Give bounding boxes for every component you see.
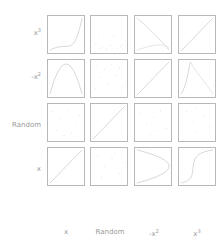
row-label-sup: 2 [38, 71, 41, 77]
col-label-base: Random [96, 228, 125, 236]
col-label-base: x [64, 228, 68, 236]
row-label-x: x [37, 165, 41, 173]
panel-random-vs-neg-x2 [134, 103, 172, 142]
random-scatter [48, 104, 84, 141]
random-scatter [91, 16, 127, 53]
panel-neg-x2-vs-x [47, 59, 85, 98]
panel-random-vs-x3 [178, 103, 216, 142]
panel-x-vs-random [90, 147, 128, 186]
row-label-base: Random [12, 121, 41, 129]
col-label-sup: 3 [197, 228, 200, 234]
identity-diagonal [179, 16, 215, 53]
identity-diagonal [48, 148, 84, 185]
inverted-parabola [48, 60, 84, 97]
panel-neg-x2-vs-x3 [178, 59, 216, 98]
panel-x3-vs-random [90, 15, 128, 54]
col-label-x-cubed: x3 [177, 228, 217, 238]
identity-diagonal [135, 60, 171, 97]
row-label-random: Random [12, 121, 41, 129]
panel-x3-vs-neg-x2 [134, 15, 172, 54]
random-scatter [91, 60, 127, 97]
col-label-x: x [46, 228, 86, 236]
row-label-neg-x-squared: -x2 [31, 71, 41, 81]
panel-x3-vs-x [47, 15, 85, 54]
curve [179, 60, 215, 97]
col-label-neg-x-squared: -x2 [134, 228, 174, 238]
panel-x-vs-x [47, 147, 85, 186]
row-label-sup: 3 [38, 27, 41, 33]
row-label-base: x [37, 165, 41, 173]
random-scatter [135, 104, 171, 141]
panel-neg-x2-vs-neg-x2 [134, 59, 172, 98]
sideways-parabola [135, 148, 171, 185]
identity-diagonal [91, 104, 127, 141]
panel-x3-vs-x3 [178, 15, 216, 54]
col-label-sup: 2 [156, 228, 159, 234]
curve [135, 16, 171, 53]
col-label-random: Random [90, 228, 130, 236]
cubic-curve [48, 16, 84, 53]
row-label-x-cubed: x3 [34, 27, 41, 37]
panel-neg-x2-vs-random [90, 59, 128, 98]
panel-x-vs-x3 [178, 147, 216, 186]
panel-random-vs-random [90, 103, 128, 142]
random-scatter [179, 104, 215, 141]
panel-random-vs-x [47, 103, 85, 142]
random-scatter [91, 148, 127, 185]
panel-x-vs-neg-x2 [134, 147, 172, 186]
cube-root-curve [179, 148, 215, 185]
